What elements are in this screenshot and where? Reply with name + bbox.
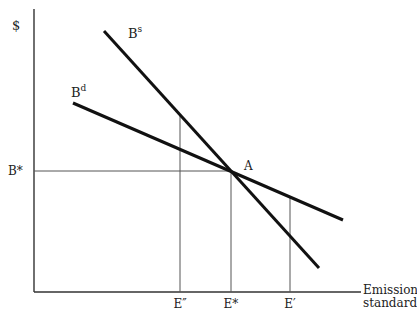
equilibrium-point-label: A (243, 159, 253, 173)
x-axis-label-line1: Emission (363, 283, 417, 297)
supply-curve-label: Bs (128, 24, 143, 41)
supply-curve-label-base: B (128, 26, 138, 41)
demand-curve-bd (73, 103, 343, 220)
y-axis-label: $ (12, 18, 20, 33)
demand-curve-label: Bd (71, 83, 87, 100)
x-tick-e-prime: E′ (284, 297, 296, 311)
supply-curve-label-superscript: s (138, 24, 143, 34)
x-axis-label-line2: standard (363, 296, 417, 310)
x-tick-e-double-prime: E″ (173, 297, 187, 311)
supply-curve-bs (104, 31, 319, 268)
demand-curve-label-superscript: d (81, 83, 87, 93)
x-tick-e-star: E* (224, 297, 239, 311)
emission-standard-diagram: $ Bs Bd A B* E″ E* E′ Emission standard (0, 0, 417, 318)
demand-curve-label-base: B (71, 85, 81, 100)
b-star-label: B* (8, 164, 23, 178)
